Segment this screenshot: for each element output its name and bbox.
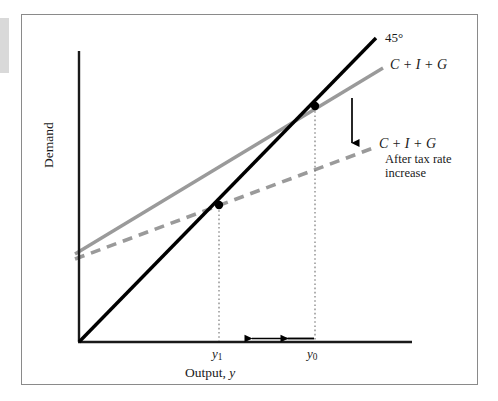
y0-subscript: 0 (313, 352, 318, 362)
after-tax-line-2: increase (385, 166, 452, 180)
y-axis-title: Demand (41, 122, 57, 168)
forty-five-degree-line (79, 38, 376, 342)
x-tick-label-y0: y0 (307, 346, 317, 362)
y1-subscript: 1 (218, 352, 223, 362)
x-tick-label-y1: y1 (212, 346, 222, 362)
x-axis-title-text: Output, (185, 365, 229, 380)
x-axis-title: Output, y (185, 365, 235, 381)
label-cig-after-tax: C + I + G (379, 136, 436, 152)
label-after-tax-caption: After tax rate increase (385, 152, 452, 180)
equilibrium-point-y1 (215, 201, 223, 209)
label-cig-original: C + I + G (390, 57, 447, 73)
figure-root: 45° C + I + G C + I + G After tax rate i… (0, 0, 498, 401)
equilibrium-point-y0 (311, 102, 319, 110)
after-tax-line-1: After tax rate (385, 152, 452, 166)
x-axis-title-var: y (229, 365, 235, 380)
label-45-degree: 45° (385, 30, 403, 46)
